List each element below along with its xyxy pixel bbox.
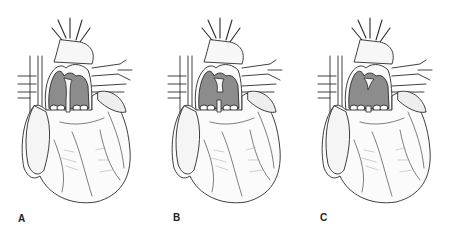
panel-label-a: A — [18, 213, 25, 224]
panel-label-c: C — [320, 212, 327, 223]
panel-label-b: B — [173, 212, 180, 223]
panel-a: A — [0, 0, 151, 240]
panel-b: B — [150, 0, 301, 240]
heart-illustration-c — [300, 0, 451, 240]
heart-illustration-a — [0, 0, 151, 240]
heart-illustration-b — [150, 0, 301, 240]
panel-c: C — [300, 0, 451, 240]
